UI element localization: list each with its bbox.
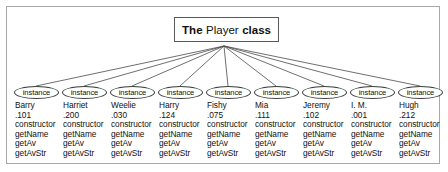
instance-ellipse: instance: [206, 86, 251, 99]
instance-attributes: Weelie.030constructorgetNamegetAvgetAvSt…: [110, 101, 158, 159]
diagram-canvas: The Player class instanceBarry.101constr…: [0, 0, 448, 172]
instance-method: getAvStr: [63, 149, 110, 159]
instance-attributes: Jeremy.102constructorgetNamegetAvgetAvSt…: [302, 101, 350, 159]
instance-column: instanceFishy.075constructorgetNamegetAv…: [206, 86, 254, 159]
instance-ellipse: instance: [14, 86, 59, 99]
instance-column: instanceBarry.101constructorgetNamegetAv…: [14, 86, 62, 159]
instance-column: instanceJeremy.102constructorgetNamegetA…: [302, 86, 350, 159]
instance-method: getAvStr: [15, 149, 62, 159]
instance-method: getAvStr: [255, 149, 302, 159]
instance-column: instanceHarriet.200constructorgetNameget…: [62, 86, 110, 159]
instance-method: getAvStr: [399, 149, 446, 159]
instance-ellipse: instance: [254, 86, 299, 99]
instance-ellipse: instance: [158, 86, 203, 99]
instance-ellipse: instance: [302, 86, 347, 99]
instance-column: instanceMia.111constructorgetNamegetAvge…: [254, 86, 302, 159]
class-box-prefix: The: [182, 24, 202, 36]
instance-ellipse: instance: [350, 86, 395, 99]
instance-column: instanceHugh.212constructorgetNamegetAvg…: [398, 86, 446, 159]
instance-method: getAvStr: [303, 149, 350, 159]
instance-method: getAvStr: [207, 149, 254, 159]
instance-attributes: Harry.124constructorgetNamegetAvgetAvStr: [158, 101, 206, 159]
instance-ellipse: instance: [62, 86, 107, 99]
instance-column: instanceI. M..001constructorgetNamegetAv…: [350, 86, 398, 159]
instance-method: getAvStr: [159, 149, 206, 159]
instance-ellipse: instance: [398, 86, 443, 99]
instance-attributes: Harriet.200constructorgetNamegetAvgetAvS…: [62, 101, 110, 159]
instance-attributes: Fishy.075constructorgetNamegetAvgetAvStr: [206, 101, 254, 159]
instance-attributes: Barry.101constructorgetNamegetAvgetAvStr: [14, 101, 62, 159]
class-box-classname: Player: [206, 24, 239, 36]
instance-attributes: I. M..001constructorgetNamegetAvgetAvStr: [350, 101, 398, 159]
instance-method: getAvStr: [351, 149, 398, 159]
class-box-suffix: class: [242, 24, 271, 36]
instance-ellipse: instance: [110, 86, 155, 99]
instance-attributes: Hugh.212constructorgetNamegetAvgetAvStr: [398, 101, 446, 159]
instance-attributes: Mia.111constructorgetNamegetAvgetAvStr: [254, 101, 302, 159]
class-box: The Player class: [174, 17, 279, 42]
instance-column: instanceWeelie.030constructorgetNamegetA…: [110, 86, 158, 159]
instance-column: instanceHarry.124constructorgetNamegetAv…: [158, 86, 206, 159]
instance-method: getAvStr: [111, 149, 158, 159]
